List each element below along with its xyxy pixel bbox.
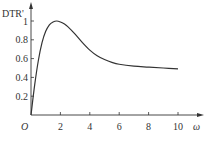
x-axis-label: ω <box>193 121 200 132</box>
x-tick-label: 6 <box>117 121 122 132</box>
x-axis-arrow-icon <box>197 113 204 117</box>
y-tick-label: 0.4 <box>16 72 29 83</box>
series-line <box>31 21 178 115</box>
x-tick-label: 2 <box>58 121 63 132</box>
x-tick-label: 10 <box>173 121 183 132</box>
x-tick-label: 8 <box>146 121 151 132</box>
y-tick-label: 0.8 <box>16 34 29 45</box>
origin-label: O <box>21 121 28 132</box>
y-tick-label: 0.2 <box>16 91 29 102</box>
y-axis-label: DTR' <box>2 8 24 19</box>
chart: 246810 0.20.40.60.81 DTR' ω O <box>0 0 212 142</box>
y-axis-arrow-icon <box>29 2 33 9</box>
y-tick-label: 0.6 <box>16 53 29 64</box>
x-tick-label: 4 <box>87 121 92 132</box>
